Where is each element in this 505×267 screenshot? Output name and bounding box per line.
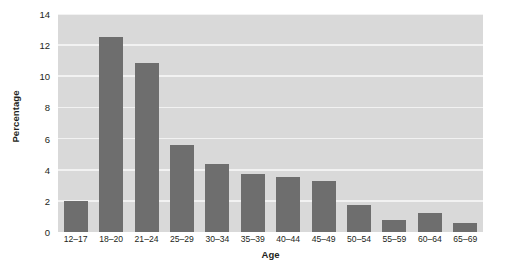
bar-slot xyxy=(235,14,270,232)
x-axis-tick-label: 60–64 xyxy=(412,234,447,244)
bar[interactable] xyxy=(64,201,88,232)
bars-layer xyxy=(58,14,483,232)
x-axis-tick-label: 50–54 xyxy=(341,234,376,244)
bar[interactable] xyxy=(241,174,265,232)
y-axis-tick-label: 10 xyxy=(39,71,50,82)
bar[interactable] xyxy=(418,213,442,232)
bar[interactable] xyxy=(453,223,477,232)
bar-slot xyxy=(200,14,235,232)
bar[interactable] xyxy=(135,63,159,232)
bar-slot xyxy=(306,14,341,232)
bar-slot xyxy=(164,14,199,232)
bar-chart-figure: Percentage 02468101214 12–1718–2021–2425… xyxy=(0,0,505,267)
x-axis-title: Age xyxy=(58,249,483,260)
x-axis-tick-label: 21–24 xyxy=(129,234,164,244)
y-axis-tick-label: 14 xyxy=(39,9,50,20)
bar-slot xyxy=(271,14,306,232)
bar-slot xyxy=(412,14,447,232)
bar-slot xyxy=(377,14,412,232)
bar-slot xyxy=(129,14,164,232)
x-axis-tick-label: 12–17 xyxy=(58,234,93,244)
x-axis-tick-label: 25–29 xyxy=(164,234,199,244)
x-axis-tick-label: 35–39 xyxy=(235,234,270,244)
bar[interactable] xyxy=(347,205,371,232)
y-axis-tick-labels: 02468101214 xyxy=(30,14,54,232)
y-axis-tick-label: 2 xyxy=(45,195,50,206)
bar[interactable] xyxy=(205,164,229,232)
bar[interactable] xyxy=(276,177,300,232)
bar-slot xyxy=(448,14,483,232)
bar-slot xyxy=(341,14,376,232)
y-axis-title: Percentage xyxy=(0,0,30,232)
y-axis-tick-label: 12 xyxy=(39,40,50,51)
x-axis-tick-label: 55–59 xyxy=(377,234,412,244)
y-axis-tick-label: 6 xyxy=(45,133,50,144)
bar-slot xyxy=(93,14,128,232)
plot-area xyxy=(58,14,483,232)
bar[interactable] xyxy=(382,220,406,232)
x-axis-tick-label: 30–34 xyxy=(200,234,235,244)
bar-slot xyxy=(58,14,93,232)
x-axis-tick-labels: 12–1718–2021–2425–2930–3435–3940–4445–49… xyxy=(58,234,483,248)
y-axis-tick-label: 0 xyxy=(45,227,50,238)
y-axis-tick-label: 4 xyxy=(45,164,50,175)
x-axis-tick-label: 65–69 xyxy=(448,234,483,244)
bar[interactable] xyxy=(170,145,194,232)
bar[interactable] xyxy=(312,181,336,232)
x-axis-tick-label: 45–49 xyxy=(306,234,341,244)
y-axis-title-label: Percentage xyxy=(10,90,21,142)
bar[interactable] xyxy=(99,37,123,232)
x-axis-tick-label: 18–20 xyxy=(93,234,128,244)
x-axis-tick-label: 40–44 xyxy=(271,234,306,244)
y-axis-tick-label: 8 xyxy=(45,102,50,113)
